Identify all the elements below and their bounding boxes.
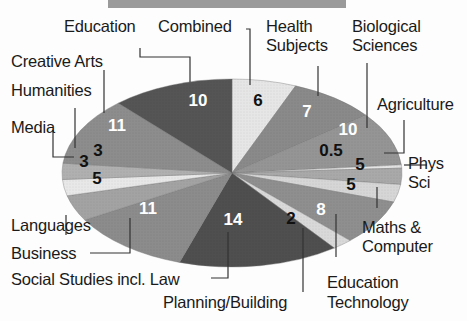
label-media: Media: [11, 118, 55, 136]
value-planning: 2: [286, 209, 295, 228]
label-business: Business: [11, 244, 76, 262]
value-education: 10: [189, 91, 208, 110]
value-languages: 5: [92, 169, 101, 188]
label-education: Education: [64, 17, 136, 35]
label-social: Social Studies incl. Law: [11, 270, 180, 288]
label-creative: Creative Arts: [11, 52, 103, 70]
label-phys-2: Sci: [408, 173, 430, 191]
label-planning: Planning/Building: [163, 293, 287, 311]
label-maths-1: Maths &: [362, 218, 421, 236]
label-languages: Languages: [11, 216, 91, 234]
label-phys-1: Phys: [408, 154, 444, 172]
value-humanities: 3: [93, 141, 102, 160]
value-health: 7: [302, 102, 311, 121]
label-edtech-2: Technology: [327, 293, 408, 311]
label-maths-2: Computer: [362, 237, 433, 255]
value-maths: 5: [346, 175, 355, 194]
label-bio-1: Biological: [352, 17, 421, 35]
value-edtech: 8: [316, 200, 325, 219]
value-social: 14: [224, 210, 243, 229]
value-agriculture: 0.5: [319, 141, 343, 160]
value-phys: 5: [355, 155, 364, 174]
value-combined: 6: [253, 91, 262, 110]
value-media: 3: [79, 152, 88, 171]
label-humanities: Humanities: [11, 81, 92, 99]
label-bio-2: Sciences: [352, 36, 417, 54]
label-combined: Combined: [158, 17, 232, 35]
value-bio: 10: [339, 120, 358, 139]
label-edtech-1: Education: [327, 273, 399, 291]
label-agriculture: Agriculture: [377, 95, 454, 113]
label-health-1: Health: [266, 17, 313, 35]
pie-slices: [62, 79, 402, 267]
value-creative: 11: [108, 116, 126, 135]
value-business: 11: [139, 199, 157, 218]
label-health-2: Subjects: [266, 36, 328, 54]
